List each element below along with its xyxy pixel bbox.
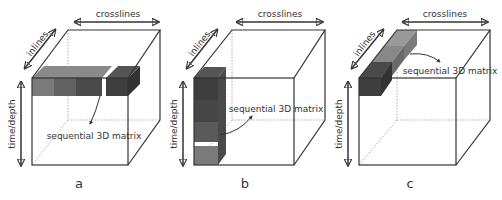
annotation-label: sequential 3D matrix xyxy=(229,104,324,114)
annotation-label: sequential 3D matrix xyxy=(47,131,142,141)
panel-label-a: a xyxy=(75,176,83,191)
crosslines-label: crosslines xyxy=(96,9,141,19)
cube-edges xyxy=(359,30,490,165)
time-depth-label: time/depth xyxy=(7,99,17,149)
crosslines-label: crosslines xyxy=(423,9,468,19)
inlines-label: inlines xyxy=(187,29,213,58)
cube-edges xyxy=(32,30,160,165)
time-depth-label: time/depth xyxy=(169,99,179,149)
annotation-arrow xyxy=(410,54,440,62)
time-depth-label: time/depth xyxy=(334,99,344,149)
panel-label-c: c xyxy=(406,176,413,191)
inlines-label: inlines xyxy=(25,29,51,58)
crosslines-label: crosslines xyxy=(258,9,303,19)
panel-a: crosslines inlines time/depth sequential… xyxy=(7,9,160,191)
panel-label-b: b xyxy=(241,176,249,191)
inlines-label: inlines xyxy=(352,29,378,58)
seismic-cube-figure: crosslines inlines time/depth sequential… xyxy=(0,0,502,200)
matrix-blocks xyxy=(194,67,226,165)
panel-c: crosslines inlines time/depth sequential… xyxy=(334,9,498,191)
annotation-label: sequential 3D matrix xyxy=(403,66,498,76)
cube-hidden-edges xyxy=(32,30,160,165)
panel-b: crosslines inlines time/depth sequential… xyxy=(169,9,325,191)
cube-hidden-edges xyxy=(359,30,490,165)
matrix-blocks xyxy=(32,66,140,96)
